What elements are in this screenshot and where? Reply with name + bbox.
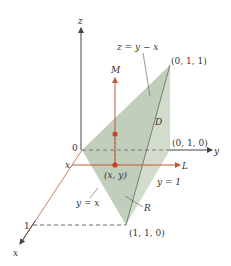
y-eq-1-label: y = 1 <box>156 177 181 187</box>
region-r-label: R <box>143 203 151 213</box>
yx-leader <box>90 188 98 198</box>
y-axis-label: y <box>213 146 220 156</box>
line-l-label: L <box>181 161 188 171</box>
point-on-plane <box>112 131 117 136</box>
x-start-label: x <box>65 160 70 170</box>
region-diagram: z y x 0 1 z = y − x (0, 1, 1) (0, 1, 0) … <box>0 0 231 266</box>
point-110-label: (1, 1, 0) <box>129 228 165 238</box>
diagram-canvas: z y x 0 1 z = y − x (0, 1, 1) (0, 1, 0) … <box>0 0 231 266</box>
point-010-label: (0, 1, 0) <box>172 138 208 148</box>
y-eq-x-label: y = x <box>75 198 99 208</box>
point-xy <box>112 162 117 167</box>
line-m-label: M <box>110 65 121 75</box>
x-axis-label: x <box>13 248 18 258</box>
origin-label: 0 <box>72 143 78 153</box>
z-axis-label: z <box>77 16 83 26</box>
point-011-label: (0, 1, 1) <box>171 56 207 66</box>
solid-d-label: D <box>154 117 162 127</box>
point-xy-label: (x, y) <box>104 170 127 180</box>
x-tick-label: 1 <box>24 221 30 231</box>
plane-equation-label: z = y − x <box>116 42 158 52</box>
